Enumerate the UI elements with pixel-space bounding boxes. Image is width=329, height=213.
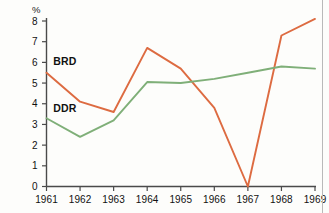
y-axis-tick-labels: 012345678 [32, 16, 38, 193]
series-line-ddr [47, 67, 316, 137]
series-label-ddr: DDR [53, 102, 77, 114]
series-inline-labels: BRDDDR [53, 55, 77, 115]
x-tick-label: 1967 [237, 194, 260, 205]
x-tick-label: 1963 [102, 194, 125, 205]
y-tick-label: 4 [32, 98, 38, 109]
y-tick-label: 6 [32, 57, 38, 68]
x-tick-label: 1964 [136, 194, 159, 205]
y-tick-label: 0 [32, 181, 38, 192]
x-axis-tick-labels: 196119621963196419651966196719681969 [35, 194, 326, 205]
x-tick-label: 1965 [169, 194, 192, 205]
y-tick-label: 1 [32, 160, 38, 171]
chart-canvas: 012345678 196119621963196419651966196719… [0, 0, 329, 213]
x-tick-label: 1962 [69, 194, 92, 205]
series-label-brd: BRD [53, 55, 77, 67]
x-tick-label: 1968 [270, 194, 293, 205]
x-tick-label: 1966 [203, 194, 226, 205]
y-tick-label: 3 [32, 119, 38, 130]
y-tick-label: 7 [32, 36, 38, 47]
line-chart: 012345678 196119621963196419651966196719… [0, 0, 329, 213]
y-tick-label: 2 [32, 140, 38, 151]
y-tick-label: 5 [32, 78, 38, 89]
series-lines [47, 19, 316, 187]
y-axis-unit-label: % [32, 4, 41, 15]
x-tick-label: 1961 [35, 194, 58, 205]
x-tick-label: 1969 [304, 194, 327, 205]
page-edge-rule [322, 0, 323, 213]
y-tick-label: 8 [32, 16, 38, 27]
series-line-brd [47, 19, 316, 187]
